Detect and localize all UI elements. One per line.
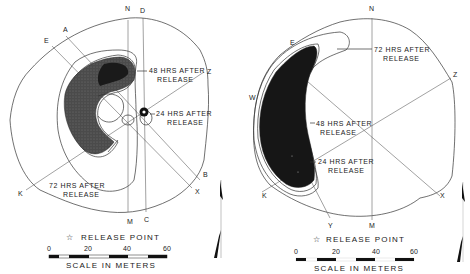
- diagram-canvas: N D A E Z B X C M K 48 HRS AFTER RELEASE…: [0, 0, 470, 274]
- right-scale-tick-0: 0: [294, 248, 298, 255]
- right-scale-tick-40: 40: [372, 248, 380, 255]
- left-24h-label-2: RELEASE: [167, 119, 204, 126]
- right-72h-label-1: 72 HRS AFTER: [374, 46, 430, 53]
- left-label-A: A: [63, 26, 68, 33]
- left-label-B: B: [203, 171, 208, 178]
- left-scale-caption: SCALE IN METERS: [66, 261, 156, 270]
- left-72h-label-2: RELEASE: [63, 191, 100, 198]
- left-label-M: M: [127, 218, 133, 225]
- right-24h-label-1: 24 HRS AFTER: [318, 158, 374, 165]
- right-scale-tick-60: 60: [410, 248, 418, 255]
- left-label-K: K: [18, 190, 23, 197]
- right-label-W: W: [249, 94, 256, 101]
- right-label-E: E: [290, 39, 295, 46]
- left-72h-label-1: 72 HRS AFTER: [49, 182, 105, 189]
- left-label-X: X: [195, 188, 200, 195]
- right-48h-label-1: 48 HRS AFTER: [316, 120, 372, 127]
- right-label-N: N: [369, 5, 374, 12]
- right-label-Y: Y: [328, 222, 333, 229]
- right-release-point-label: RELEASE POINT: [326, 235, 405, 244]
- left-48h-label-2: RELEASE: [157, 76, 194, 83]
- right-panel: N E Z W K Y M X 72 HRS AFTER RELEASE 48 …: [249, 5, 465, 273]
- left-release-point-label: RELEASE POINT: [81, 233, 160, 242]
- left-24h-label-1: 24 HRS AFTER: [156, 110, 212, 117]
- left-north-arrow-icon: [214, 180, 223, 258]
- left-panel: N D A E Z B X C M K 48 HRS AFTER RELEASE…: [10, 5, 223, 270]
- right-24h-label-2: RELEASE: [328, 167, 365, 174]
- right-label-M: M: [369, 222, 375, 229]
- left-label-N: N: [125, 5, 130, 12]
- left-scale-tick-20: 20: [84, 245, 92, 252]
- right-72h-label-2: RELEASE: [383, 55, 420, 62]
- right-label-X: X: [440, 192, 445, 199]
- right-scale-bar: 0 20 40 60 SCALE IN METERS: [294, 248, 418, 273]
- right-release-star-icon: ☆: [313, 235, 321, 244]
- left-48h-label-1: 48 HRS AFTER: [149, 67, 205, 74]
- right-plume-shaded: [260, 46, 317, 187]
- right-scale-caption: SCALE IN METERS: [314, 264, 404, 273]
- left-label-D: D: [140, 7, 145, 14]
- left-label-E: E: [44, 37, 49, 44]
- right-label-Z: Z: [453, 71, 458, 78]
- left-scale-tick-40: 40: [123, 245, 131, 252]
- right-scale-tick-20: 20: [332, 248, 340, 255]
- right-label-K: K: [262, 192, 267, 199]
- left-label-Z: Z: [207, 68, 212, 75]
- left-scale-bar: 0 20 40 60 SCALE IN METERS: [47, 245, 171, 270]
- left-release-star-icon: ☆: [66, 233, 74, 242]
- left-label-C: C: [144, 216, 149, 223]
- right-48h-label-2: RELEASE: [320, 129, 357, 136]
- left-scale-tick-60: 60: [163, 245, 171, 252]
- left-scale-tick-0: 0: [47, 245, 51, 252]
- right-north-arrow-icon: [457, 182, 465, 262]
- left-inner-loop: [98, 94, 124, 122]
